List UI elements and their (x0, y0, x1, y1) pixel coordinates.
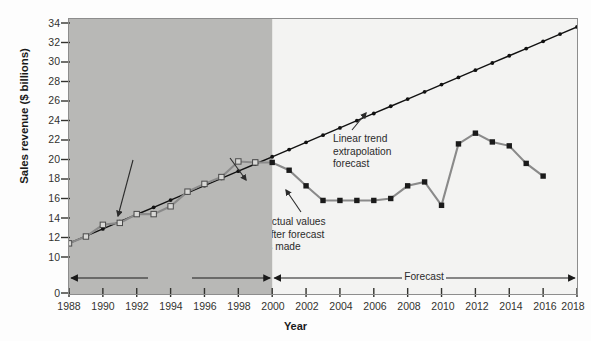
x-tick-label: 1988 (57, 300, 80, 312)
y-tick-label: 18 (32, 172, 60, 184)
x-tick-label: 2008 (397, 300, 420, 312)
x-tick-label: 1996 (193, 300, 216, 312)
x-tick-label: 1990 (91, 300, 114, 312)
x-tick-label: 2006 (363, 300, 386, 312)
x-axis-title: Year (0, 320, 591, 332)
x-tick-label: 1998 (227, 300, 250, 312)
bracket-label-actual: Actual (156, 271, 184, 282)
bracket-label-forecast: Forecast (404, 271, 444, 282)
sales-revenue-forecast-chart: Sales revenue ($ billions) Year 34 32 30… (0, 0, 591, 341)
y-tick-label: 32 (32, 36, 60, 48)
x-tick-label: 1992 (125, 300, 148, 312)
y-tick-label: 28 (32, 75, 60, 87)
x-tick-label: 2002 (295, 300, 318, 312)
y-axis-title: Sales revenue ($ billions) (18, 0, 30, 236)
x-tick-label: 2014 (499, 300, 522, 312)
y-tick-label: 26 (32, 94, 60, 106)
x-tick-label: 2000 (261, 300, 284, 312)
y-axis-tick-labels: 34 32 30 28 26 24 22 20 18 16 14 12 10 0 (32, 0, 60, 341)
annotation-trend: Linear trend extrapolation forecast (333, 133, 391, 171)
annotation-actual-after: Actual values after forecast is made (265, 216, 326, 254)
y-tick-label: 16 (32, 192, 60, 204)
x-tick-label: 2016 (533, 300, 556, 312)
y-tick-label: 12 (32, 231, 60, 243)
x-tick-label: 2012 (465, 300, 488, 312)
y-tick-label: 22 (32, 133, 60, 145)
y-tick-label: 34 (32, 17, 60, 29)
y-tick-label: 14 (32, 212, 60, 224)
y-tick-label: 20 (32, 153, 60, 165)
y-tick-label: 10 (32, 251, 60, 263)
x-tick-label: 1994 (159, 300, 182, 312)
annotation-actual-before: Actual values available before forecast … (104, 120, 210, 145)
y-tick-label: 24 (32, 114, 60, 126)
y-tick-label: 30 (32, 55, 60, 67)
x-tick-label: 2004 (329, 300, 352, 312)
x-tick-label: 2018 (561, 300, 584, 312)
x-tick-label: 2010 (431, 300, 454, 312)
y-tick-label: 0 (32, 287, 60, 299)
